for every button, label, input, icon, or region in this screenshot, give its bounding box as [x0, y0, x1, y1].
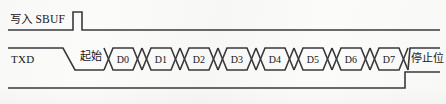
write-sbuf-label: 写入 SBUF: [10, 14, 65, 26]
data-bit-label-d2: D2: [193, 54, 206, 65]
data-bit-label-d5: D5: [307, 54, 320, 65]
data-bit-label-d1: D1: [155, 54, 168, 65]
waveform-lines: [8, 12, 440, 88]
data-bit-label-d0: D0: [117, 54, 130, 65]
data-bit-label-d7: D7: [383, 54, 396, 65]
data-bit-label-d6: D6: [345, 54, 358, 65]
waveform-canvas: [0, 0, 446, 104]
ti-flag-waveform: [8, 72, 440, 88]
data-bit-label-d4: D4: [269, 54, 282, 65]
data-bit-label-d3: D3: [231, 54, 244, 65]
timing-diagram-figure: 写入 SBUF TXD 起始 停止位 D0D1D2D3D4D5D6D7: [0, 0, 446, 104]
write-sbuf-waveform: [8, 12, 440, 30]
txd-label: TXD: [11, 54, 35, 65]
start-bit-label: 起始: [80, 51, 102, 62]
stop-bit-label: 停止位: [411, 53, 444, 64]
